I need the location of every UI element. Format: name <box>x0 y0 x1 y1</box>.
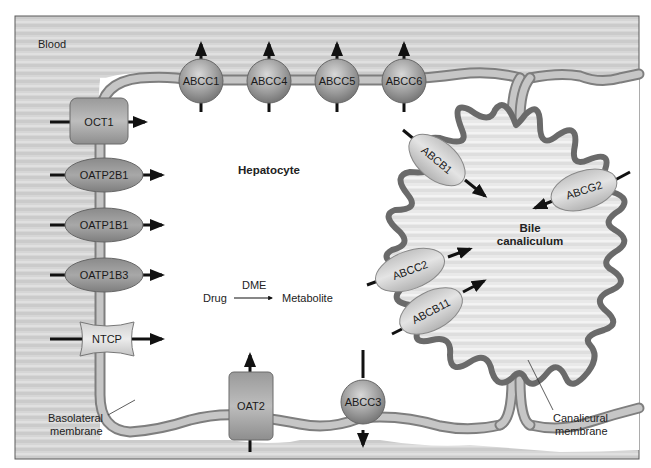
svg-text:OCT1: OCT1 <box>84 116 113 128</box>
svg-text:ABCC5: ABCC5 <box>319 75 356 87</box>
canaliculum-label: canaliculum <box>497 235 563 247</box>
basolateral-label-2: membrane <box>50 425 103 437</box>
svg-text:OATP1B3: OATP1B3 <box>80 269 129 281</box>
svg-text:NTCP: NTCP <box>92 333 122 345</box>
canalicular-label: Canalicural <box>553 412 608 424</box>
svg-text:ABCC3: ABCC3 <box>345 396 382 408</box>
svg-text:ABCC4: ABCC4 <box>251 75 288 87</box>
svg-text:ABCC6: ABCC6 <box>386 75 423 87</box>
svg-text:OATP2B1: OATP2B1 <box>80 169 129 181</box>
drug-label: Drug <box>203 292 227 304</box>
metabolite-label: Metabolite <box>282 292 333 304</box>
dme-label: DME <box>242 279 266 291</box>
canalicular-label-2: membrane <box>555 425 608 437</box>
svg-text:OATP1B1: OATP1B1 <box>80 219 129 231</box>
basolateral-label: Basolateral <box>48 412 103 424</box>
svg-text:ABCC1: ABCC1 <box>183 75 220 87</box>
bile-label: Bile <box>519 222 540 234</box>
blood-label: Blood <box>38 38 66 50</box>
hepatocyte-transporter-diagram: Blood Hepatocyte Bile canaliculum DME Dr… <box>0 0 651 468</box>
svg-text:OAT2: OAT2 <box>237 400 265 412</box>
hepatocyte-label: Hepatocyte <box>238 164 300 176</box>
